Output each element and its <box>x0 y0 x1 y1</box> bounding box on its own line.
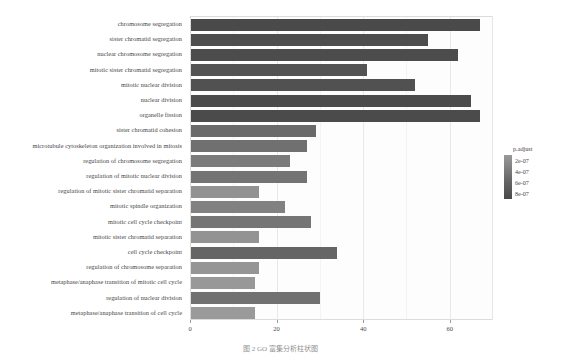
y-axis-label: metaphase/anaphase transition of cell cy… <box>71 305 182 320</box>
y-axis-label: mitotic sister chromatid segregation <box>90 62 182 77</box>
bar-row <box>190 199 493 214</box>
bar <box>190 125 316 137</box>
x-axis-tick-label: 60 <box>446 325 453 332</box>
bar <box>190 247 337 259</box>
bar-row <box>190 78 493 93</box>
legend-key-label: 6e-07 <box>515 179 529 187</box>
bar-row <box>190 139 493 154</box>
bar <box>190 307 255 319</box>
y-axis-label: mitotic spindle organization <box>110 198 182 213</box>
bar-row <box>190 108 493 123</box>
bar <box>190 155 290 167</box>
bar-row <box>190 260 493 275</box>
x-axis: 0204060 <box>190 320 493 338</box>
bar <box>190 79 415 91</box>
bar-row <box>190 169 493 184</box>
legend-key-label: 2e-07 <box>515 157 529 165</box>
go-enrichment-bar-chart-figure: chromosome segregationsister chromatid s… <box>0 0 561 358</box>
y-axis-category-labels: chromosome segregationsister chromatid s… <box>0 16 186 320</box>
y-axis-label: microtubule cytoskeleton organization in… <box>33 138 182 153</box>
bar <box>190 64 367 76</box>
chart-panel <box>190 16 493 320</box>
bar-row <box>190 123 493 138</box>
y-axis-label: organelle fission <box>139 107 182 122</box>
x-axis-tick <box>363 320 364 323</box>
bar-row <box>190 32 493 47</box>
bar <box>190 19 480 31</box>
legend-key-label: 4e-07 <box>515 168 529 176</box>
bar <box>190 231 259 243</box>
bar <box>190 277 255 289</box>
bar-row <box>190 306 493 320</box>
y-axis-label: chromosome segregation <box>118 16 182 31</box>
y-axis-label: regulation of chromosome segregation <box>83 153 182 168</box>
y-axis-label: metaphase/anaphase transition of mitotic… <box>51 274 182 289</box>
y-axis-label: mitotic nuclear division <box>121 77 182 92</box>
bar-row <box>190 291 493 306</box>
y-axis-label: regulation of chromosome separation <box>86 259 182 274</box>
bar <box>190 216 311 228</box>
bar <box>190 262 259 274</box>
bar <box>190 110 480 122</box>
bar-row <box>190 63 493 78</box>
bar-row <box>190 215 493 230</box>
bar-row <box>190 154 493 169</box>
bar <box>190 34 428 46</box>
y-axis-label: cell cycle checkpoint <box>128 244 182 259</box>
bar <box>190 186 259 198</box>
bar-row <box>190 17 493 32</box>
bar <box>190 201 285 213</box>
plot-area: chromosome segregationsister chromatid s… <box>0 0 561 338</box>
y-axis-label: sister chromatid segregation <box>110 31 182 46</box>
bar-row <box>190 47 493 62</box>
legend-p-adjust: p.adjust 2e-074e-076e-078e-07 <box>503 145 561 215</box>
bar-row <box>190 230 493 245</box>
legend-title: p.adjust <box>513 145 532 152</box>
y-axis-label: regulation of nuclear division <box>106 290 182 305</box>
x-axis-tick <box>277 320 278 323</box>
bar <box>190 95 471 107</box>
y-axis-label: regulation of mitotic nuclear division <box>86 168 182 183</box>
x-axis-tick <box>190 320 191 323</box>
legend-colorbar <box>504 155 512 199</box>
x-axis-tick <box>450 320 451 323</box>
bar-row <box>190 245 493 260</box>
y-axis-label: mitotic sister chromatid separation <box>93 229 182 244</box>
bar-row <box>190 275 493 290</box>
bar <box>190 49 458 61</box>
x-axis-tick-label: 40 <box>360 325 367 332</box>
legend-key-label: 8e-07 <box>515 190 529 198</box>
y-axis-label: sister chromatid cohesion <box>116 122 182 137</box>
bar <box>190 140 307 152</box>
y-axis-label: nuclear division <box>141 92 182 107</box>
y-axis-label: nuclear chromosome segregation <box>97 46 182 61</box>
y-axis-label: mitotic cell cycle checkpoint <box>108 214 182 229</box>
bar-row <box>190 184 493 199</box>
figure-caption: 图 2 GO 富集分析柱状图 <box>0 343 561 358</box>
x-axis-tick-label: 20 <box>273 325 280 332</box>
bar <box>190 292 320 304</box>
x-axis-tick-label: 0 <box>188 325 191 332</box>
bar-row <box>190 93 493 108</box>
y-axis-label: regulation of mitotic sister chromatid s… <box>58 183 182 198</box>
bar <box>190 171 307 183</box>
